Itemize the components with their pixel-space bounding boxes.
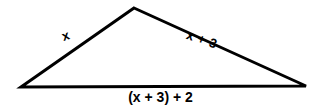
triangle-figure: x x + 3 (x + 3) + 2 — [0, 0, 321, 111]
triangle-outline — [21, 8, 306, 87]
bottom-side-label: (x + 3) + 2 — [0, 90, 321, 104]
